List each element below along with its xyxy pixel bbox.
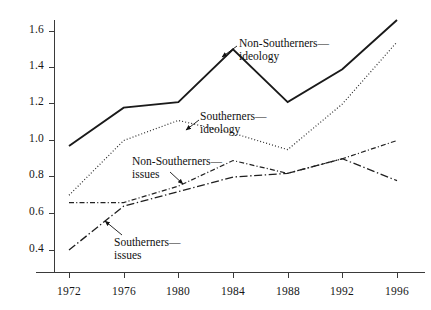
x-tick-label: 1988 (263, 285, 313, 297)
y-tick-label: 1.0 (8, 132, 44, 144)
y-tick-label: 0.6 (8, 205, 44, 217)
annotation-arrow (105, 221, 122, 235)
y-tick-label: 0.4 (8, 242, 44, 254)
y-tick-label: 0.8 (8, 168, 44, 180)
series-annotation-line2: issues (132, 168, 222, 181)
x-tick-label: 1976 (99, 285, 149, 297)
x-tick-label: 1992 (317, 285, 367, 297)
series-annotation: Southerners—issues (114, 236, 180, 262)
axis-spines (36, 20, 425, 273)
line-chart: 1.61.41.21.00.80.60.4 197219761980198419… (0, 0, 431, 310)
series-annotation-line1: Non-Southerners— (132, 155, 222, 167)
x-tick-label: 1972 (44, 285, 94, 297)
x-tick-label: 1984 (208, 285, 258, 297)
series-annotation: Non-Southerners—ideology (239, 37, 329, 63)
series-annotation-line2: issues (114, 249, 180, 262)
x-tick-label: 1980 (153, 285, 203, 297)
series-annotation-line1: Southerners— (200, 110, 266, 122)
annotation-arrow (186, 120, 199, 130)
y-tick-label: 1.4 (8, 59, 44, 71)
y-tick-label: 1.2 (8, 95, 44, 107)
series-annotation-line2: ideology (200, 123, 266, 136)
y-tick-marks (49, 32, 55, 251)
series-annotation-line2: ideology (239, 50, 329, 63)
y-tick-label: 1.6 (8, 23, 44, 35)
series-annotation-line1: Non-Southerners— (239, 37, 329, 49)
series-annotation: Southerners—ideology (200, 110, 266, 136)
series-line (69, 141, 397, 203)
x-tick-label: 1996 (372, 285, 422, 297)
series-annotation-line1: Southerners— (114, 236, 180, 248)
series-annotation: Non-Southerners—issues (132, 155, 222, 181)
x-tick-marks (70, 273, 398, 279)
